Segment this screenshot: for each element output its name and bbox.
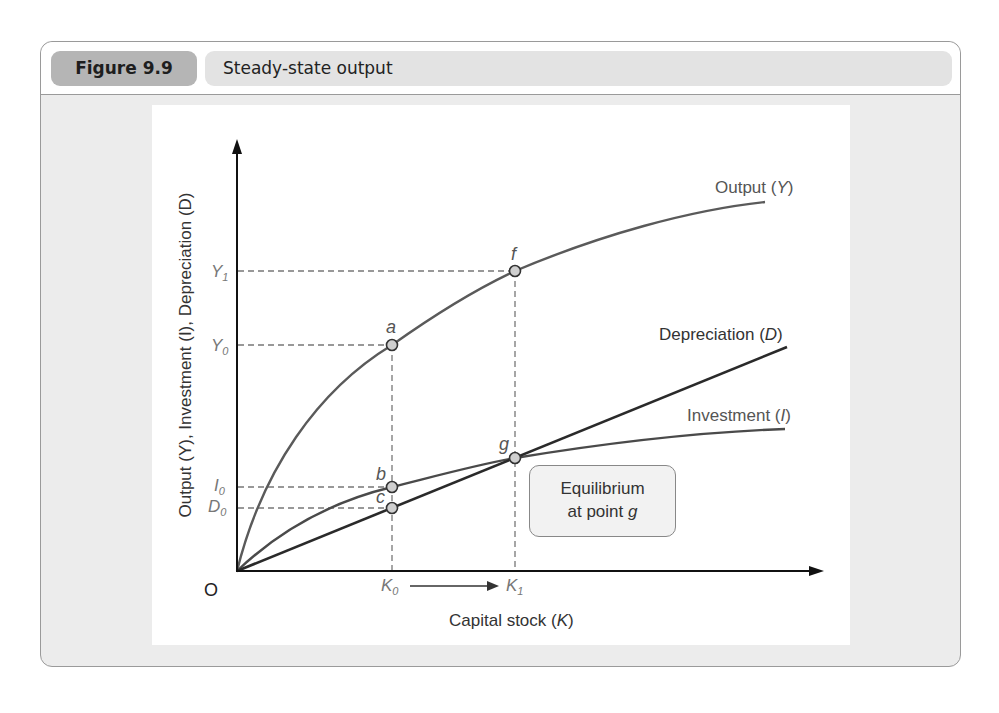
y-tick-y1: Y1 [211, 262, 228, 283]
label-point-g: g [499, 434, 509, 454]
equilibrium-line1: Equilibrium [530, 477, 675, 500]
guide-lines [238, 271, 515, 571]
point-g [510, 453, 521, 464]
y-tick-y0: Y0 [211, 336, 229, 357]
axes [232, 139, 824, 576]
x-tick-k1: K1 [506, 576, 523, 597]
steady-state-chart: a f b c g Y1 Y0 I0 D0 K0 K1 O Capital st… [0, 0, 999, 713]
y-tick-d0: D0 [208, 497, 227, 518]
x-tick-k0: K0 [381, 576, 399, 597]
point-c [387, 503, 398, 514]
label-point-b: b [376, 464, 386, 484]
investment-curve-label: Investment (I) [687, 406, 791, 425]
y-tick-i0: I0 [214, 476, 226, 497]
depreciation-curve-label: Depreciation (D) [659, 325, 783, 344]
x-axis-label: Capital stock (K) [449, 611, 574, 630]
origin-label: O [204, 580, 218, 600]
equilibrium-line2: at point g [530, 500, 675, 523]
y-axis-arrow-icon [232, 139, 242, 154]
y-axis-label: Output (Y), Investment (I), Depreciation… [176, 193, 195, 518]
output-curve-label: Output (Y) [715, 178, 793, 197]
points [387, 266, 521, 514]
investment-curve [237, 429, 785, 571]
label-point-f: f [511, 244, 518, 264]
point-f [510, 266, 521, 277]
point-a [387, 340, 398, 351]
label-point-a: a [386, 317, 396, 337]
equilibrium-annotation: Equilibrium at point g [529, 465, 676, 537]
label-point-c: c [376, 487, 385, 507]
k-shift-arrowhead-icon [487, 581, 499, 591]
x-axis-arrow-icon [809, 566, 824, 576]
point-b [387, 482, 398, 493]
